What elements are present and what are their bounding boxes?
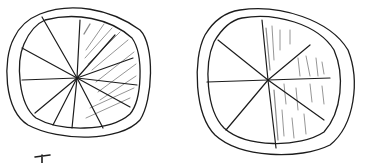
right-circle-spoke <box>268 80 276 148</box>
right-circle-spoke <box>262 20 268 80</box>
right-circle-spoke <box>268 78 330 80</box>
right-shading <box>266 26 324 140</box>
sketch-canvas <box>0 0 365 163</box>
left-circle-spoke <box>22 78 77 80</box>
right-circle-spoke <box>207 80 268 82</box>
right-circle-spoke <box>218 40 268 80</box>
left-circle <box>7 8 151 137</box>
left-outer-ring <box>7 8 151 137</box>
left-spokes <box>22 17 137 128</box>
left-hatching <box>84 24 136 118</box>
right-circle-spoke <box>268 45 310 80</box>
partial-stroke-mark <box>35 155 50 163</box>
right-circle <box>197 9 354 155</box>
left-circle-spoke <box>77 20 80 78</box>
left-circle-spoke <box>35 78 77 113</box>
right-circle-spoke <box>226 80 268 130</box>
fraction-circles-drawing <box>0 0 365 163</box>
